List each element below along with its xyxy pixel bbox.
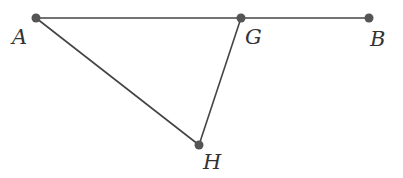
point-h — [195, 141, 204, 150]
segment-gh — [199, 18, 241, 145]
segment-ah — [36, 18, 199, 145]
point-g — [237, 14, 246, 23]
point-a — [32, 14, 41, 23]
label-h: H — [202, 150, 222, 174]
label-b: B — [369, 27, 385, 51]
diagram-svg: AGBH — [0, 0, 403, 178]
geometry-diagram: AGBH — [0, 0, 403, 178]
point-b — [365, 14, 374, 23]
label-g: G — [245, 25, 262, 49]
label-a: A — [10, 25, 27, 49]
